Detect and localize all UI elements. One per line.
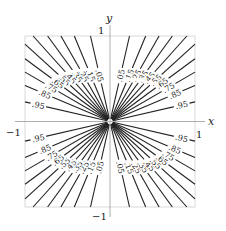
contour-line bbox=[25, 59, 108, 120]
axes bbox=[15, 25, 205, 217]
contour-label: .95 bbox=[31, 133, 45, 145]
contour-label: .95 bbox=[175, 100, 189, 112]
contour-line bbox=[112, 123, 195, 184]
contour-label: .95 bbox=[31, 100, 45, 112]
y-min-tick-label: −1 bbox=[92, 211, 107, 222]
contour-line bbox=[25, 123, 108, 184]
x-max-tick-label: 1 bbox=[196, 129, 202, 140]
y-axis-label: y bbox=[105, 12, 113, 25]
y-max-tick-label: 1 bbox=[98, 25, 104, 36]
contour-plot: .05.05.05.05.15.15.15.15.25.25.25.25.35.… bbox=[0, 0, 226, 231]
contour-label: .95 bbox=[174, 133, 188, 145]
contour-line bbox=[112, 59, 195, 120]
x-min-tick-label: −1 bbox=[6, 127, 21, 138]
x-axis-label: x bbox=[208, 115, 215, 128]
